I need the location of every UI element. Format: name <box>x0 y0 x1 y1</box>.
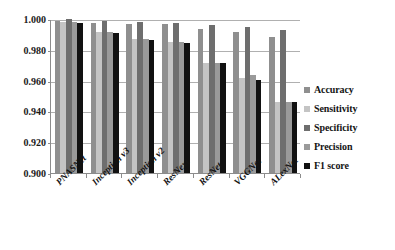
y-tick-label: 0.940 <box>0 106 46 117</box>
x-tick-mark <box>300 174 301 178</box>
x-tick-mark <box>86 174 87 178</box>
legend-item[interactable]: Precision <box>304 137 394 156</box>
legend-label: Sensitivity <box>314 103 357 114</box>
plot-area <box>50 20 300 174</box>
chart-legend: AccuracySensitivitySpecificityPrecisionF… <box>304 80 394 175</box>
legend-item[interactable]: Sensitivity <box>304 99 394 118</box>
x-axis: PNASNetInception v3Inception v2ResNextRe… <box>50 174 300 250</box>
legend-item[interactable]: Specificity <box>304 118 394 137</box>
y-tick-label: 1.000 <box>0 14 46 25</box>
legend-item[interactable]: F1 score <box>304 156 394 175</box>
y-tick-label: 0.960 <box>0 76 46 87</box>
legend-swatch-icon <box>304 87 310 93</box>
bar <box>184 43 190 173</box>
x-tick-mark <box>157 174 158 178</box>
y-tick-label: 0.900 <box>0 168 46 179</box>
bar <box>77 23 83 173</box>
legend-label: Precision <box>314 141 352 152</box>
legend-swatch-icon <box>304 163 310 169</box>
y-tick-label: 0.980 <box>0 45 46 56</box>
legend-label: F1 score <box>314 160 349 171</box>
legend-swatch-icon <box>304 106 310 112</box>
chart-figure: 0.9000.9200.9400.9600.9801.000 PNASNetIn… <box>0 0 395 250</box>
legend-label: Specificity <box>314 122 357 133</box>
legend-swatch-icon <box>304 144 310 150</box>
x-tick-mark <box>264 174 265 178</box>
legend-swatch-icon <box>304 125 310 131</box>
bar <box>220 63 226 173</box>
x-tick-mark <box>193 174 194 178</box>
legend-label: Accuracy <box>314 84 354 95</box>
y-axis: 0.9000.9200.9400.9600.9801.000 <box>0 0 46 250</box>
bar-series-container <box>51 20 300 173</box>
x-tick-mark <box>121 174 122 178</box>
legend-item[interactable]: Accuracy <box>304 80 394 99</box>
x-tick-mark <box>50 174 51 178</box>
y-tick-label: 0.920 <box>0 137 46 148</box>
x-tick-mark <box>229 174 230 178</box>
